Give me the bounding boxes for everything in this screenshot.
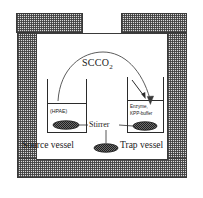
stir-bar-trap	[133, 122, 157, 130]
apparatus-diagram: SCCO2 (HPAE) Enzyme, KPP-buffer Stirrer …	[0, 0, 203, 198]
source-vessel-label: Source vessel	[22, 141, 74, 151]
stirrer-label: Stirrer	[89, 121, 109, 129]
trap-contents-line-2: KPP-buffer	[130, 110, 152, 117]
stir-bar-legend	[94, 144, 118, 152]
trap-vessel-contents: Enzyme, KPP-buffer	[130, 103, 152, 117]
source-vessel-contents: (HPAE)	[50, 109, 67, 114]
scco2-label: SCCO2	[82, 58, 113, 71]
scco2-text: SCCO	[82, 57, 109, 68]
source-vessel-neck	[48, 79, 87, 103]
trap-vessel-label: Trap vessel	[120, 141, 163, 151]
diagram-linework	[0, 0, 203, 198]
stir-bar-source	[53, 121, 79, 129]
scco2-subscript: 2	[109, 63, 113, 71]
trap-contents-line-1: Enzyme,	[130, 103, 152, 110]
